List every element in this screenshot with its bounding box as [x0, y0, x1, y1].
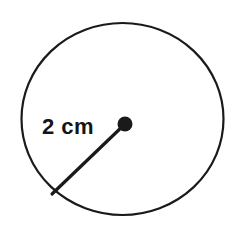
- center-dot: [118, 117, 133, 132]
- geometry-figure-canvas: 2 cm: [0, 0, 243, 226]
- radius-length-label: 2 cm: [42, 114, 94, 139]
- circle-diagram-svg: 2 cm: [0, 0, 243, 226]
